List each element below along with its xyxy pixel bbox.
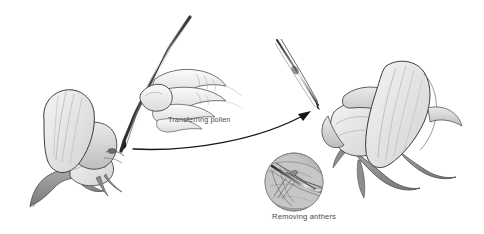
label-removing-anthers: Removing anthers [272,212,336,221]
magnified-inset-circle [263,153,336,211]
botanical-illustration [0,0,484,234]
left-flower-group [30,90,124,207]
right-flower-standard [366,61,430,167]
forceps-small [275,39,320,110]
thumb [140,84,172,111]
label-transferring-pollen: Transferring pollen [168,115,231,124]
illustration-canvas: Transferring pollen Removing anthers [0,0,484,234]
right-flower-group [322,61,462,198]
arrow-head [298,111,311,121]
